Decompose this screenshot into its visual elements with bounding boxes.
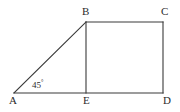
geometry-figure: A B C D E 45°: [0, 0, 180, 112]
vertex-label-b: B: [82, 6, 89, 17]
vertex-label-e: E: [83, 95, 90, 106]
vertex-label-c: C: [161, 6, 168, 17]
vertex-label-d: D: [163, 95, 171, 106]
degree-symbol-icon: °: [41, 79, 43, 85]
angle-label-45-degrees: 45°: [32, 79, 43, 90]
vertex-label-a: A: [9, 95, 17, 106]
figure-background: [0, 0, 180, 112]
angle-value: 45: [32, 80, 41, 90]
figure-canvas: [0, 0, 180, 112]
